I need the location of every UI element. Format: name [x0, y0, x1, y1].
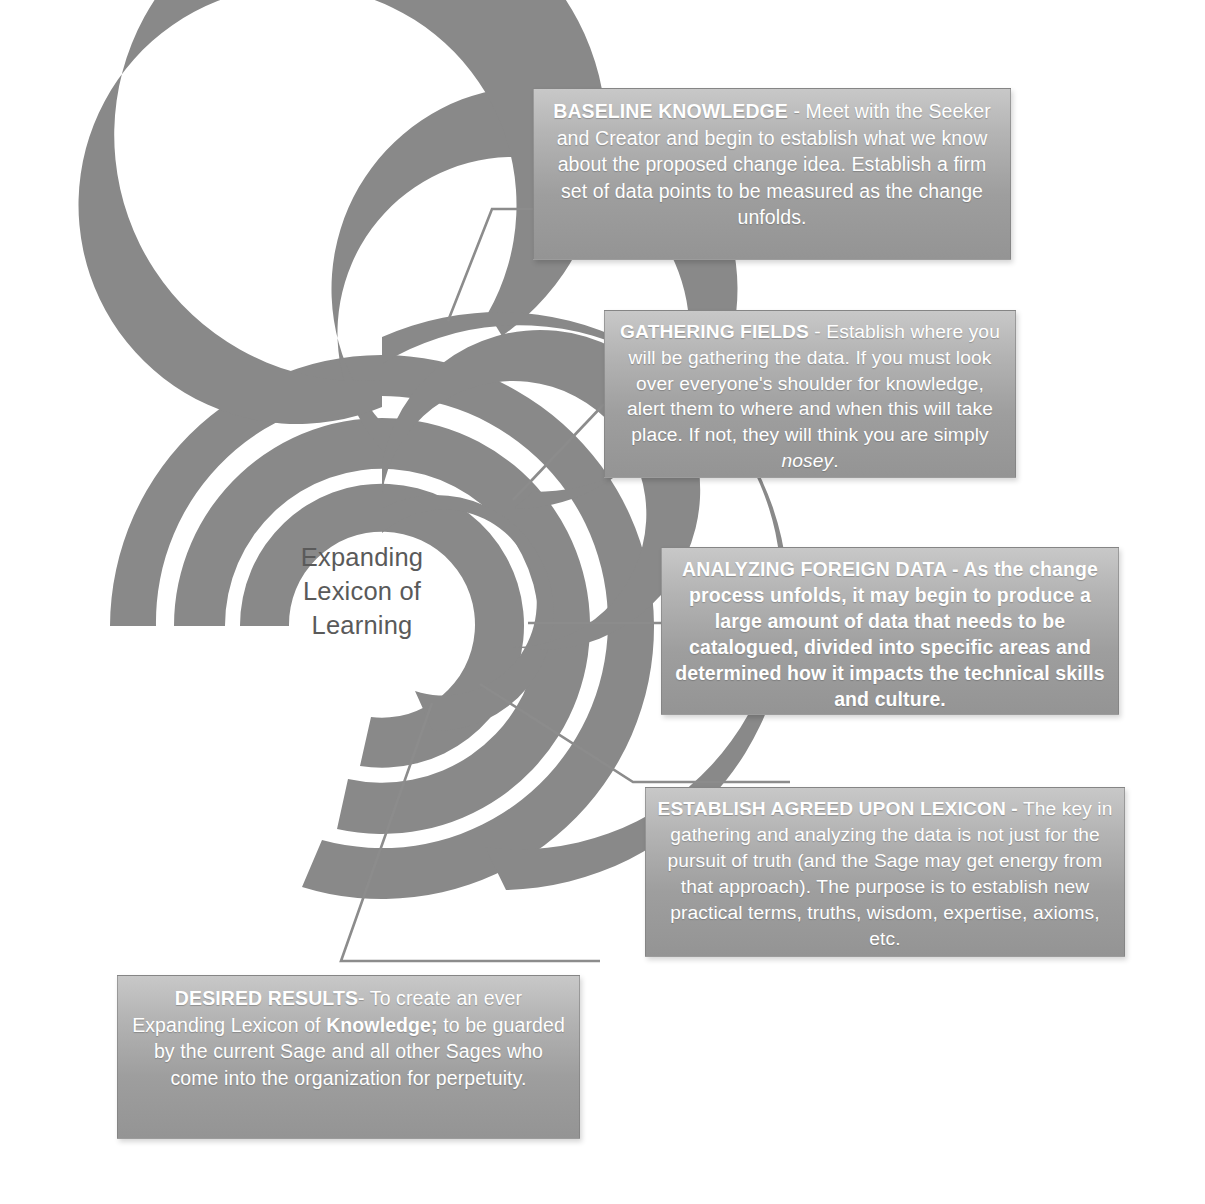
center-label: Expanding Lexicon of Learning — [272, 540, 452, 642]
callout-2-separator: - — [809, 321, 826, 342]
center-label-line-3: Learning — [272, 608, 452, 642]
callout-3-heading: ANALYZING FOREIGN DATA — [682, 558, 946, 580]
callout-5-separator: - — [358, 987, 370, 1009]
center-label-line-2: Lexicon of — [272, 574, 452, 608]
diagram-canvas: Expanding Lexicon of Learning BASELINE K… — [0, 0, 1205, 1204]
callout-baseline-knowledge[interactable]: BASELINE KNOWLEDGE - Meet with the Seeke… — [533, 88, 1011, 260]
callout-2-body-italic: nosey — [781, 450, 833, 471]
callout-5-body-bold: Knowledge; — [326, 1014, 438, 1036]
callout-4-body: The key in gathering and analyzing the d… — [668, 798, 1113, 949]
callout-1-heading: BASELINE KNOWLEDGE — [553, 100, 788, 122]
callout-3-body: As the change process unfolds, it may be… — [675, 558, 1104, 710]
callout-gathering-fields[interactable]: GATHERING FIELDS - Establish where you w… — [604, 310, 1016, 478]
callout-desired-results[interactable]: DESIRED RESULTS- To create an ever Expan… — [117, 975, 580, 1139]
callout-2-body-post: . — [833, 450, 838, 471]
callout-2-heading: GATHERING FIELDS — [620, 321, 809, 342]
callout-1-separator: - — [788, 100, 806, 122]
callout-5-heading: DESIRED RESULTS — [175, 987, 358, 1009]
center-label-line-1: Expanding — [272, 540, 452, 574]
callout-establish-agreed-upon-lexicon[interactable]: ESTABLISH AGREED UPON LEXICON - The key … — [645, 787, 1125, 957]
callout-analyzing-foreign-data[interactable]: ANALYZING FOREIGN DATA - As the change p… — [661, 547, 1119, 715]
callout-4-heading: ESTABLISH AGREED UPON LEXICON - — [658, 798, 1018, 819]
callout-3-separator: - — [946, 558, 963, 580]
